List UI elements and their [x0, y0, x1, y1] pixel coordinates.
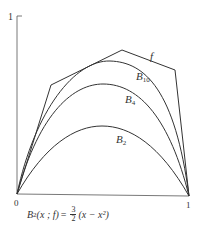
formula-rhs: (x − x²) — [78, 209, 108, 220]
x-right-label: 1 — [186, 200, 191, 210]
b2-label: B2 — [116, 133, 127, 147]
b10-label: B10 — [136, 70, 150, 84]
frac-den: 2 — [71, 215, 75, 223]
bernstein-diagram: 1 0 1 f B10 B4 B2 — [0, 0, 200, 230]
f-polyline — [17, 50, 189, 196]
b2-curve — [17, 126, 189, 196]
formula-equals: = — [61, 209, 67, 220]
f-label: f — [150, 50, 155, 62]
b4-label: B4 — [125, 93, 136, 107]
origin-label: 0 — [14, 198, 19, 208]
x-axis — [17, 194, 189, 196]
formula: B2(x ; f) = 32 (x − x²) — [27, 206, 109, 223]
b4-curve — [17, 84, 189, 196]
formula-fraction: 32 — [70, 206, 76, 223]
y-top-label: 1 — [8, 11, 13, 22]
formula-args: (x ; f) — [37, 209, 59, 220]
